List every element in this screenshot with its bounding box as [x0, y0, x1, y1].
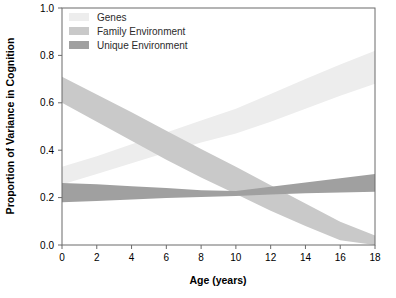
variance-in-cognition-chart: 024681012141618 0.00.20.40.60.81.0 Age (… — [0, 0, 396, 298]
x-tick-label: 0 — [59, 252, 65, 263]
y-tick-label: 0.4 — [40, 145, 54, 156]
y-tick-label: 1.0 — [40, 3, 54, 14]
x-axis-ticks: 024681012141618 — [59, 245, 381, 263]
legend-label-family-environment: Family Environment — [97, 26, 186, 37]
y-tick-label: 0.6 — [40, 97, 54, 108]
x-tick-label: 4 — [129, 252, 135, 263]
x-tick-label: 6 — [164, 252, 170, 263]
legend-swatch-genes — [69, 13, 89, 21]
y-axis-ticks: 0.00.20.40.60.81.0 — [40, 3, 62, 251]
x-tick-label: 8 — [198, 252, 204, 263]
x-tick-label: 12 — [265, 252, 277, 263]
y-tick-label: 0.0 — [40, 240, 54, 251]
legend-label-unique-environment: Unique Environment — [97, 40, 188, 51]
legend-swatch-unique-environment — [69, 41, 89, 49]
y-tick-label: 0.2 — [40, 192, 54, 203]
chart-figure: 024681012141618 0.00.20.40.60.81.0 Age (… — [0, 0, 396, 298]
x-tick-label: 18 — [369, 252, 381, 263]
y-axis-title: Proportion of Variance in Cognition — [4, 38, 16, 215]
legend-label-genes: Genes — [97, 12, 126, 23]
x-tick-label: 10 — [230, 252, 242, 263]
x-tick-label: 2 — [94, 252, 100, 263]
y-tick-label: 0.8 — [40, 50, 54, 61]
x-tick-label: 14 — [300, 252, 312, 263]
x-tick-label: 16 — [335, 252, 347, 263]
legend-swatch-family-environment — [69, 27, 89, 35]
x-axis-title: Age (years) — [189, 274, 246, 286]
